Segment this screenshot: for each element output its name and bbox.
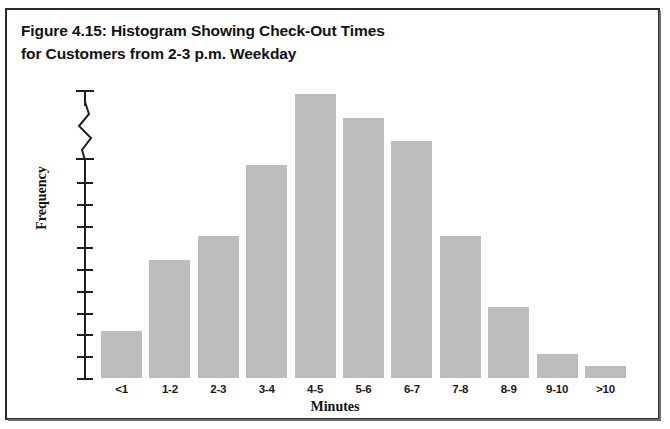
histogram-bar: [198, 236, 239, 378]
figure-root: Figure 4.15: Histogram Showing Check-Out…: [0, 0, 670, 429]
plot-area: <11-22-33-44-55-66-77-88-99-10>10 Freque…: [0, 0, 670, 429]
x-axis-tick-label: >10: [579, 383, 632, 395]
histogram-bar: [101, 331, 142, 378]
histogram-bar: [391, 141, 432, 378]
histogram-bar: [343, 118, 384, 378]
histogram-bar: [295, 94, 336, 378]
x-axis-tick-label: 7-8: [434, 383, 487, 395]
bars-layer: [0, 0, 670, 429]
x-axis-tick-label: 6-7: [385, 383, 438, 395]
x-axis-tick-label: <1: [95, 383, 148, 395]
y-axis-title: Frequency: [34, 133, 50, 263]
x-axis-tick-label: 4-5: [289, 383, 342, 395]
x-axis-tick-label: 5-6: [337, 383, 390, 395]
histogram-bar: [149, 260, 190, 378]
histogram-bar: [585, 366, 626, 378]
x-axis-tick-label: 3-4: [240, 383, 293, 395]
histogram-bar: [537, 354, 578, 378]
x-axis-tick-label: 9-10: [531, 383, 584, 395]
x-axis-tick-label: 1-2: [143, 383, 196, 395]
histogram-bar: [488, 307, 529, 378]
x-axis-tick-label: 2-3: [192, 383, 245, 395]
x-axis-title: Minutes: [0, 399, 670, 415]
histogram-bar: [440, 236, 481, 378]
histogram-bar: [246, 165, 287, 378]
x-axis-tick-label: 8-9: [482, 383, 535, 395]
